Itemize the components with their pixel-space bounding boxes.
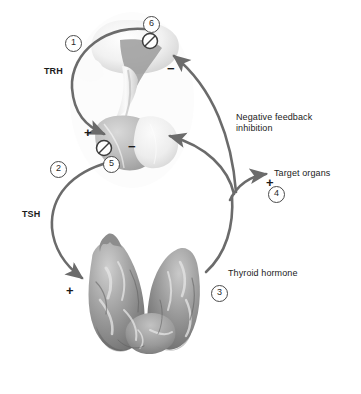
inhibition-icon-5	[97, 141, 112, 156]
sign-minus-hypothalamus: −	[167, 62, 175, 75]
marker-4: 4	[268, 186, 285, 203]
arrow-thyroid-hormone-trunk	[206, 196, 232, 272]
inhibition-icon-6	[143, 34, 158, 49]
label-trh: TRH	[44, 66, 63, 77]
label-tsh: TSH	[22, 209, 40, 220]
sign-plus-thyroid: +	[66, 284, 74, 297]
diagram-canvas: TRH TSH Negative feedback inhibition Tar…	[0, 0, 361, 394]
marker-1: 1	[65, 35, 82, 52]
label-thyroid-hormone: Thyroid hormone	[228, 268, 298, 279]
sign-minus-pituitary: −	[128, 140, 136, 153]
hypothalamus-pituitary-group	[70, 12, 194, 188]
sign-plus-pituitary: +	[84, 126, 92, 139]
label-target-organs: Target organs	[274, 168, 330, 179]
marker-2: 2	[50, 161, 67, 178]
label-inhibition: inhibition	[236, 123, 273, 134]
label-negative-feedback: Negative feedback	[236, 112, 312, 123]
diagram-artwork	[0, 0, 361, 394]
thyroid-gland-group	[89, 234, 200, 355]
marker-5: 5	[103, 156, 120, 173]
marker-3: 3	[211, 285, 228, 302]
marker-6: 6	[143, 16, 160, 33]
